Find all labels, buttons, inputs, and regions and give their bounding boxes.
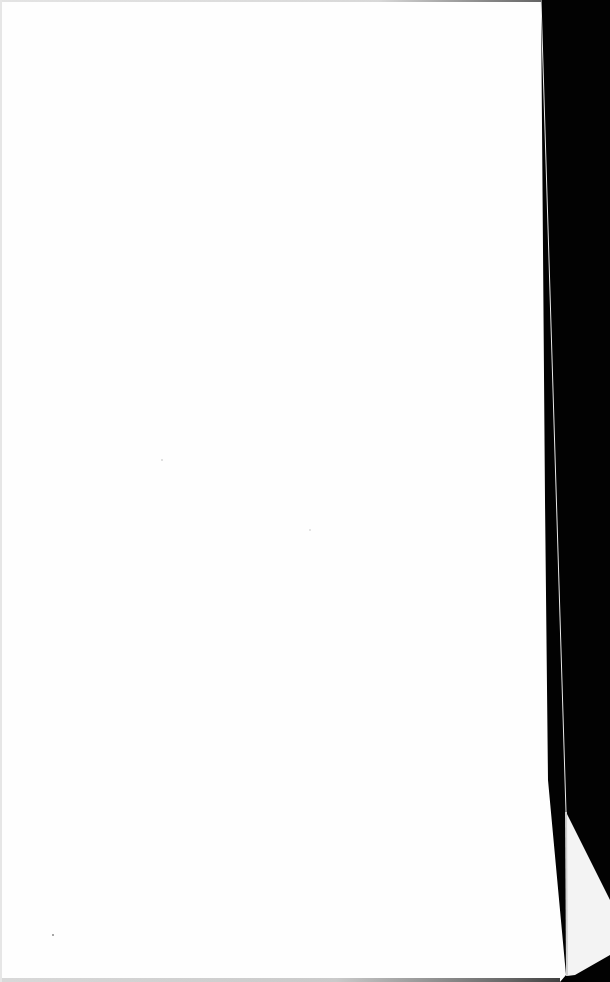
paper-sheet (0, 0, 610, 982)
dust-speck (309, 529, 311, 531)
paper-curled-corner (566, 812, 610, 976)
paper-fold-crease (566, 812, 567, 976)
paper-body (0, 0, 566, 982)
paper-bottom-edge-shadow (0, 978, 560, 982)
dust-speck (52, 934, 54, 936)
dust-speck (161, 459, 163, 461)
photo-scene (0, 0, 610, 982)
paper-top-edge-shadow (0, 0, 541, 2)
paper-left-edge (0, 0, 2, 982)
